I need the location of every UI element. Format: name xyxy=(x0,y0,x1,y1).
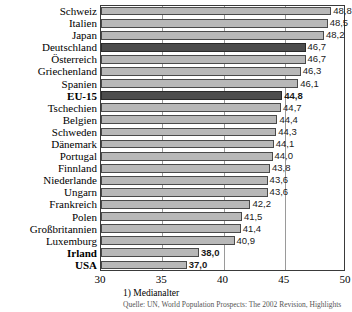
bar xyxy=(101,188,268,197)
bar-row: Irland38,0 xyxy=(0,247,352,259)
bar xyxy=(101,79,298,88)
value-label: 46,7 xyxy=(308,53,327,65)
value-label: 37,0 xyxy=(189,259,208,271)
category-label: Irland xyxy=(0,247,97,259)
category-label: Polen xyxy=(0,211,97,223)
x-tick-label-30: 30 xyxy=(95,273,106,286)
bar-row: Frankreich42,2 xyxy=(0,198,352,210)
x-tick-label-50: 50 xyxy=(340,273,351,286)
value-label: 40,9 xyxy=(237,235,256,247)
bar xyxy=(101,128,276,137)
bar xyxy=(101,140,274,149)
category-label: Tschechien xyxy=(0,102,97,114)
bar-row: Deutschland46,7 xyxy=(0,41,352,53)
category-label: Schweden xyxy=(0,126,97,138)
category-label: Finnland xyxy=(0,162,97,174)
value-label: 43,6 xyxy=(270,186,289,198)
bar xyxy=(101,176,268,185)
value-label: 43,8 xyxy=(272,162,291,174)
value-label: 44,0 xyxy=(275,150,294,162)
bar-row: Großbritannien41,4 xyxy=(0,223,352,235)
bar-row: Ungarn43,6 xyxy=(0,186,352,198)
bar xyxy=(101,212,242,221)
bar xyxy=(101,19,328,28)
bar-row: Niederlande43,6 xyxy=(0,174,352,186)
value-label: 46,1 xyxy=(300,78,319,90)
bar-row: Belgien44,4 xyxy=(0,114,352,126)
bar-row: Tschechien44,7 xyxy=(0,102,352,114)
value-label: 44,7 xyxy=(283,102,302,114)
bar-row: Japan48,2 xyxy=(0,29,352,41)
category-label: Belgien xyxy=(0,114,97,126)
bar-row: Österreich46,7 xyxy=(0,53,352,65)
median-age-bar-chart: Schweiz48,8Italien48,5Japan48,2Deutschla… xyxy=(0,0,352,312)
value-label: 42,2 xyxy=(252,198,271,210)
category-label: Portugal xyxy=(0,150,97,162)
category-label: USA xyxy=(0,259,97,271)
bar-row: Finnland43,8 xyxy=(0,162,352,174)
category-label: Dänemark xyxy=(0,138,97,150)
bar-row: Italien48,5 xyxy=(0,17,352,29)
bar xyxy=(101,55,306,64)
bar xyxy=(101,67,301,76)
bar-row: Griechenland46,3 xyxy=(0,65,352,77)
bar-row: Schweiz48,8 xyxy=(0,5,352,17)
bar xyxy=(101,43,306,52)
bar xyxy=(101,31,324,40)
bar-row: Luxemburg40,9 xyxy=(0,235,352,247)
bar xyxy=(101,261,187,270)
category-label: Frankreich xyxy=(0,198,97,210)
category-label: Italien xyxy=(0,17,97,29)
category-label: Ungarn xyxy=(0,186,97,198)
bar-row: USA37,0 xyxy=(0,259,352,271)
category-label: Japan xyxy=(0,29,97,41)
x-tick-label-40: 40 xyxy=(217,273,228,286)
x-tick-label-45: 45 xyxy=(278,273,289,286)
bar-row: EU-1544,8 xyxy=(0,90,352,102)
bar-row: Spanien46,1 xyxy=(0,78,352,90)
bar-row: Polen41,5 xyxy=(0,211,352,223)
value-label: 44,1 xyxy=(276,138,295,150)
value-label: 44,8 xyxy=(284,90,303,102)
bar-row: Dänemark44,1 xyxy=(0,138,352,150)
value-label: 41,5 xyxy=(244,211,263,223)
value-label: 43,6 xyxy=(270,174,289,186)
bar xyxy=(101,248,199,257)
x-axis: 3035404550 xyxy=(100,273,345,287)
bar xyxy=(101,103,281,112)
source-text: Quelle: UN, World Population Prospects: … xyxy=(123,300,341,310)
bar-row: Schweden44,3 xyxy=(0,126,352,138)
bar xyxy=(101,224,241,233)
category-label: Griechenland xyxy=(0,65,97,77)
bar xyxy=(101,115,277,124)
bar xyxy=(101,152,273,161)
footnote-text: 1) Medianalter xyxy=(123,288,179,299)
value-label: 44,4 xyxy=(279,114,298,126)
value-label: 46,3 xyxy=(303,65,322,77)
x-tick-label-35: 35 xyxy=(156,273,167,286)
bar xyxy=(101,7,331,16)
bar xyxy=(101,236,235,245)
value-label: 38,0 xyxy=(201,247,220,259)
value-label: 46,7 xyxy=(308,41,327,53)
value-label: 41,4 xyxy=(243,223,262,235)
category-label: Spanien xyxy=(0,78,97,90)
category-label: Österreich xyxy=(0,53,97,65)
value-label: 44,3 xyxy=(278,126,297,138)
bar xyxy=(101,91,282,100)
value-label: 48,8 xyxy=(333,5,352,17)
category-label: Großbritannien xyxy=(0,223,97,235)
category-label: Schweiz xyxy=(0,5,97,17)
category-label: EU-15 xyxy=(0,90,97,102)
category-label: Deutschland xyxy=(0,41,97,53)
category-label: Niederlande xyxy=(0,174,97,186)
bar xyxy=(101,164,270,173)
value-label: 48,5 xyxy=(330,17,349,29)
category-label: Luxemburg xyxy=(0,235,97,247)
bar-rows-container: Schweiz48,8Italien48,5Japan48,2Deutschla… xyxy=(0,5,352,271)
value-label: 48,2 xyxy=(326,29,345,41)
bar xyxy=(101,200,250,209)
bar-row: Portugal44,0 xyxy=(0,150,352,162)
